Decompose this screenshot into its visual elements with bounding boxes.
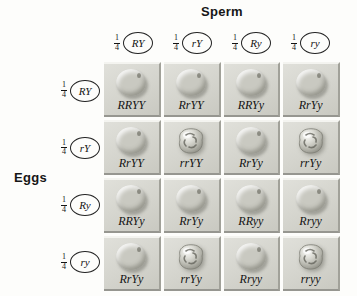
genotype-label: rrYy [180, 273, 201, 287]
genotype-label: RrYy [179, 215, 203, 229]
pea-icon [176, 127, 206, 154]
fraction: 14 [173, 34, 179, 53]
genotype-label: RrYY [119, 157, 144, 171]
pea-icon [296, 243, 326, 270]
sperm-gamete-RY: 14 RY [104, 27, 163, 59]
eggs-axis-title: Eggs [14, 170, 47, 185]
sperm-gamete-ry: 14 ry [281, 27, 340, 59]
gamete-circle: rY [182, 32, 212, 54]
pea-icon [236, 185, 266, 212]
punnett-cell: RRyy [224, 178, 281, 233]
pea-icon [176, 185, 206, 212]
fraction: 14 [114, 34, 120, 53]
genotype-label: RrYy [239, 157, 263, 171]
punnett-cell: rrYy [164, 236, 221, 291]
pea-icon [116, 69, 146, 96]
sperm-gamete-rY: 14 rY [163, 27, 222, 59]
fraction: 14 [61, 81, 67, 100]
egg-gamete-RY: 14 RY [50, 62, 102, 119]
pea-icon [116, 243, 146, 270]
fraction: 14 [291, 34, 297, 53]
genotype-label: RRYY [117, 99, 145, 113]
punnett-cell: RRYy [104, 178, 161, 233]
pea-icon [296, 127, 326, 154]
egg-gamete-ry: 14 ry [50, 234, 102, 291]
gamete-circle: Ry [241, 32, 271, 54]
gamete-circle: RY [70, 80, 100, 102]
pea-icon [116, 185, 146, 212]
pea-icon [116, 127, 146, 154]
fraction: 14 [232, 34, 238, 53]
genotype-label: Rryy [240, 273, 263, 287]
punnett-cell: RRYY [104, 62, 161, 117]
punnett-cell: Rryy [283, 178, 340, 233]
egg-gamete-headers: 14 RY 14 rY 14 Ry 14 ry [50, 62, 102, 291]
punnett-cell: RrYy [164, 178, 221, 233]
punnett-square-figure: Sperm Eggs 14 RY 14 rY 14 Ry 14 ry 14 RY… [0, 0, 357, 296]
egg-gamete-Ry: 14 Ry [50, 177, 102, 234]
punnett-grid: RRYY RrYY RRYy RrYy RrYY [104, 62, 340, 291]
genotype-label: RrYy [299, 99, 323, 113]
punnett-cell: rrYY [164, 120, 221, 175]
fraction: 14 [61, 196, 67, 215]
egg-gamete-rY: 14 rY [50, 119, 102, 176]
punnett-cell: RrYy [283, 62, 340, 117]
pea-icon [176, 69, 206, 96]
pea-icon [296, 69, 326, 96]
punnett-cell: RrYY [164, 62, 221, 117]
genotype-label: rrYy [300, 157, 321, 171]
genotype-label: rryy [301, 273, 321, 287]
sperm-axis-title: Sperm [104, 4, 340, 19]
gamete-circle: ry [70, 251, 100, 273]
genotype-label: RRyy [238, 215, 263, 229]
punnett-cell: rryy [283, 236, 340, 291]
punnett-cell: Rryy [224, 236, 281, 291]
gamete-circle: rY [70, 137, 100, 159]
genotype-label: RrYy [119, 273, 143, 287]
fraction: 14 [61, 253, 67, 272]
sperm-gamete-Ry: 14 Ry [222, 27, 281, 59]
punnett-cell: RrYY [104, 120, 161, 175]
gamete-circle: RY [123, 32, 153, 54]
gamete-circle: ry [300, 32, 330, 54]
pea-icon [236, 69, 266, 96]
punnett-cell: RRYy [224, 62, 281, 117]
punnett-cell: RrYy [224, 120, 281, 175]
pea-icon [296, 185, 326, 212]
pea-icon [236, 243, 266, 270]
punnett-cell: RrYy [104, 236, 161, 291]
fraction: 14 [61, 139, 67, 158]
pea-icon [176, 243, 206, 270]
gamete-circle: Ry [70, 194, 100, 216]
genotype-label: RRYy [238, 99, 264, 113]
genotype-label: Rryy [299, 215, 322, 229]
sperm-gamete-headers: 14 RY 14 rY 14 Ry 14 ry [104, 27, 340, 59]
genotype-label: RrYY [178, 99, 203, 113]
genotype-label: rrYY [180, 157, 203, 171]
punnett-cell: rrYy [283, 120, 340, 175]
pea-icon [236, 127, 266, 154]
genotype-label: RRYy [118, 215, 144, 229]
